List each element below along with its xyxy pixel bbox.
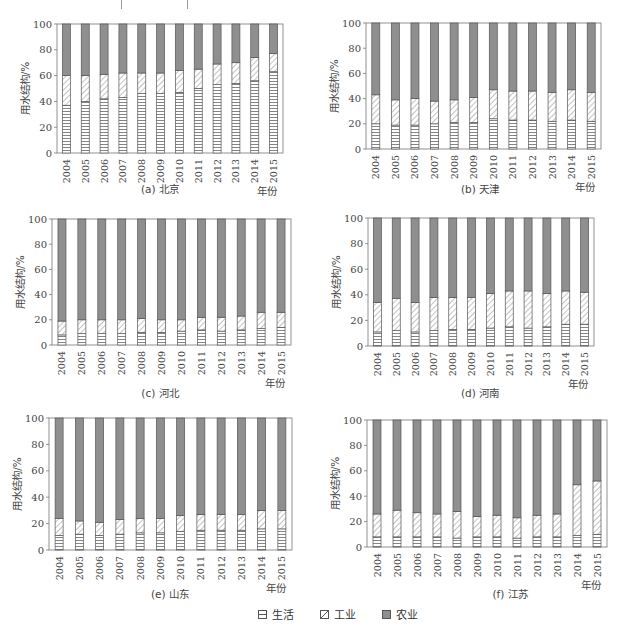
legend: 生活 工业 农业 xyxy=(258,606,418,622)
bar-segment-agriculture xyxy=(513,420,521,518)
y-tick-label: 60 xyxy=(349,465,362,476)
y-axis-label: 用水结构/% xyxy=(329,457,341,511)
x-tick-label: 2007 xyxy=(432,553,443,577)
bar-segment-agriculture xyxy=(593,420,601,481)
x-tick-label: 2005 xyxy=(392,553,403,577)
horizontal-lines-swatch-icon xyxy=(258,610,267,619)
bar-segment-agriculture xyxy=(373,420,381,514)
legend-label-agriculture: 农业 xyxy=(396,606,418,622)
bar-segment-agriculture xyxy=(493,420,501,515)
bar-segment-agriculture xyxy=(453,420,461,511)
bar-segment-living xyxy=(373,537,381,547)
y-tick-label: 80 xyxy=(349,440,362,451)
legend-label-living: 生活 xyxy=(272,606,294,622)
x-tick-label: 2006 xyxy=(412,553,423,577)
x-tick-label: 2009 xyxy=(472,553,483,577)
chart-svg: 020406080100用水结构/%2004200520062007200820… xyxy=(0,0,621,636)
bar-segment-living xyxy=(493,537,501,547)
x-tick-label: 2013 xyxy=(552,553,563,577)
bar-segment-living xyxy=(593,534,601,547)
bar-segment-agriculture xyxy=(393,420,401,510)
bar-segment-agriculture xyxy=(413,420,421,513)
diagonal-hatch-swatch-icon xyxy=(320,610,329,619)
legend-item-industry: 工业 xyxy=(320,606,356,622)
x-tick-label: 2011 xyxy=(512,553,523,577)
bar-segment-industry xyxy=(453,511,461,538)
bar-segment-agriculture xyxy=(473,420,481,517)
bar-segment-industry xyxy=(373,514,381,537)
legend-item-living: 生活 xyxy=(258,606,294,622)
bar-segment-industry xyxy=(593,481,601,534)
bar-segment-agriculture xyxy=(573,420,581,485)
y-tick-label: 20 xyxy=(349,516,362,527)
x-tick-label: 2008 xyxy=(452,553,463,577)
x-axis-label: 年份 xyxy=(581,579,602,591)
bar-segment-living xyxy=(573,536,581,547)
y-tick-label: 40 xyxy=(349,491,362,502)
bar-segment-industry xyxy=(413,513,421,537)
bar-segment-living xyxy=(453,538,461,547)
bar-segment-industry xyxy=(473,517,481,537)
bar-segment-living xyxy=(553,537,561,547)
x-tick-label: 2004 xyxy=(372,553,383,577)
bar-segment-industry xyxy=(533,515,541,537)
bar-segment-industry xyxy=(393,510,401,537)
x-tick-label: 2010 xyxy=(492,553,503,577)
plot-frame xyxy=(367,420,607,547)
solid-gray-swatch-icon xyxy=(382,610,391,619)
legend-label-industry: 工业 xyxy=(334,606,356,622)
bar-segment-agriculture xyxy=(533,420,541,515)
y-tick-label: 0 xyxy=(356,542,362,553)
bar-segment-industry xyxy=(553,514,561,537)
bar-segment-agriculture xyxy=(553,420,561,514)
x-tick-label: 2014 xyxy=(572,553,583,577)
bar-segment-living xyxy=(533,537,541,547)
chart-caption: (f) 江苏 xyxy=(492,588,527,600)
bar-segment-living xyxy=(513,538,521,547)
bar-segment-agriculture xyxy=(433,420,441,514)
bar-segment-industry xyxy=(573,485,581,536)
y-tick-label: 100 xyxy=(343,415,362,426)
bar-segment-industry xyxy=(433,514,441,537)
bar-segment-industry xyxy=(513,518,521,538)
x-tick-label: 2015 xyxy=(592,553,603,577)
bar-segment-industry xyxy=(493,515,501,537)
bar-segment-living xyxy=(433,537,441,547)
x-tick-label: 2012 xyxy=(532,553,543,577)
bar-segment-living xyxy=(413,537,421,547)
legend-item-agriculture: 农业 xyxy=(382,606,418,622)
bar-segment-living xyxy=(393,537,401,547)
bar-segment-living xyxy=(473,537,481,547)
